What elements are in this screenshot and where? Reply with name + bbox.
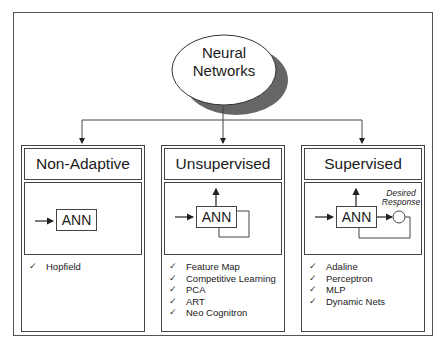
- check-icon: ✓: [169, 261, 186, 273]
- list-item: ✓Dynamic Nets: [309, 296, 422, 308]
- check-icon: ✓: [169, 296, 186, 308]
- list-item: ✓PCA: [169, 284, 282, 296]
- ann-block: ANN: [56, 209, 97, 231]
- algorithm-list: ✓Hopfield: [29, 261, 142, 273]
- list-item: ✓MLP: [309, 284, 422, 296]
- list-item: ✓Adaline: [309, 261, 422, 273]
- panel-non-adaptive: Non-Adaptive ANN ✓Hopfield: [21, 145, 145, 332]
- root-label-line1: Neural: [172, 44, 276, 62]
- algorithm-list: ✓Adaline ✓Perceptron ✓MLP ✓Dynamic Nets: [309, 261, 422, 307]
- check-icon: ✓: [169, 273, 186, 285]
- check-icon: ✓: [29, 261, 46, 273]
- comparator-circle: [393, 211, 405, 223]
- check-icon: ✓: [309, 261, 326, 273]
- check-icon: ✓: [169, 307, 186, 319]
- root-node-label: Neural Networks: [172, 44, 276, 80]
- panel-diagram: ANN: [164, 182, 282, 255]
- list-item: ✓Hopfield: [29, 261, 142, 273]
- desired-response-label: Desired Response: [379, 189, 423, 207]
- check-icon: ✓: [309, 284, 326, 296]
- root-label-line2: Networks: [172, 62, 276, 80]
- check-icon: ✓: [309, 273, 326, 285]
- panel-diagram: ANN: [24, 182, 142, 255]
- panel-title: Supervised: [304, 148, 422, 180]
- ann-block: ANN: [196, 206, 237, 228]
- panel-diagram: ANN Desired Response: [304, 182, 422, 255]
- panel-title: Unsupervised: [164, 148, 282, 180]
- list-item: ✓Perceptron: [309, 273, 422, 285]
- algorithm-list: ✓Feature Map ✓Competitive Learning ✓PCA …: [169, 261, 282, 319]
- panel-supervised: Supervised ANN Desired Response ✓Adaline…: [301, 145, 425, 332]
- panel-title: Non-Adaptive: [24, 148, 142, 180]
- list-item: ✓Neo Cognitron: [169, 307, 282, 319]
- list-item: ✓ART: [169, 296, 282, 308]
- panel-unsupervised: Unsupervised ANN ✓Feature Map ✓Competiti…: [161, 145, 285, 332]
- list-item: ✓Feature Map: [169, 261, 282, 273]
- list-item: ✓Competitive Learning: [169, 273, 282, 285]
- check-icon: ✓: [169, 284, 186, 296]
- check-icon: ✓: [309, 296, 326, 308]
- ann-block: ANN: [336, 206, 377, 228]
